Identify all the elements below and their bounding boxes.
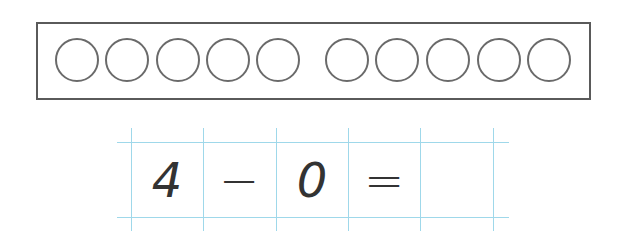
counter-circle [256,38,300,82]
counter-circle [105,38,149,82]
equation-answer-blank[interactable] [420,143,492,217]
counter-circle [426,38,470,82]
grid-line-v6 [493,128,494,231]
counter-circle [206,38,250,82]
equation-equals-sign: = [348,143,420,217]
grid-line-bottom [117,217,509,218]
counter-circle [375,38,419,82]
counter-circle [156,38,200,82]
counter-circle [325,38,369,82]
counter-circle [55,38,99,82]
counter-circle [527,38,571,82]
equation-minuend: 4 [131,143,203,217]
equation-subtrahend: 0 [276,143,348,217]
equation-minus-sign: − [203,143,275,217]
counter-circle [477,38,521,82]
